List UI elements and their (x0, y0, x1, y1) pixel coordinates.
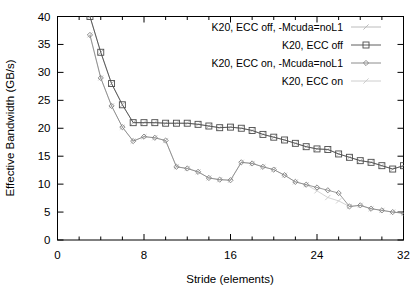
x-axis-ticks: 08162432 (54, 17, 410, 262)
bandwidth-stride-chart: 0510152025303540 08162432 Effective Band… (0, 0, 420, 291)
data-point-star (325, 195, 330, 200)
y-tick-label: 40 (38, 11, 51, 23)
y-tick-label: 25 (38, 94, 51, 106)
legend-label: K20, ECC on (282, 75, 343, 87)
series-1 (87, 14, 407, 173)
series-0 (87, 14, 406, 172)
y-tick-label: 0 (44, 234, 50, 246)
data-point-star (87, 32, 92, 37)
y-axis-title: Effective Bandwidth (GB/s) (4, 59, 16, 196)
x-tick-label: 16 (224, 249, 237, 261)
data-point-star (336, 198, 341, 203)
x-tick-label: 32 (397, 249, 410, 261)
y-tick-label: 10 (38, 178, 51, 190)
y-tick-label: 15 (38, 150, 51, 162)
x-tick-label: 8 (141, 249, 147, 261)
x-tick-label: 24 (311, 249, 324, 261)
y-tick-label: 20 (38, 122, 51, 134)
data-point-star (314, 188, 319, 193)
legend: K20, ECC off, -Mcuda=noL1K20, ECC offK20… (211, 21, 381, 87)
legend-label: K20, ECC off (282, 39, 343, 51)
series-layer (87, 14, 407, 216)
y-tick-label: 30 (38, 66, 51, 78)
x-axis-title: Stride (elements) (186, 273, 274, 285)
legend-label: K20, ECC off, -Mcuda=noL1 (212, 21, 344, 33)
y-tick-label: 35 (38, 38, 51, 50)
series-line (90, 17, 404, 170)
series-line (90, 17, 404, 170)
plot-canvas: 0510152025303540 08162432 Effective Band… (0, 0, 420, 291)
x-tick-label: 0 (54, 249, 60, 261)
legend-label: K20, ECC on, -Mcuda=noL1 (211, 57, 343, 69)
y-tick-label: 5 (44, 206, 50, 218)
